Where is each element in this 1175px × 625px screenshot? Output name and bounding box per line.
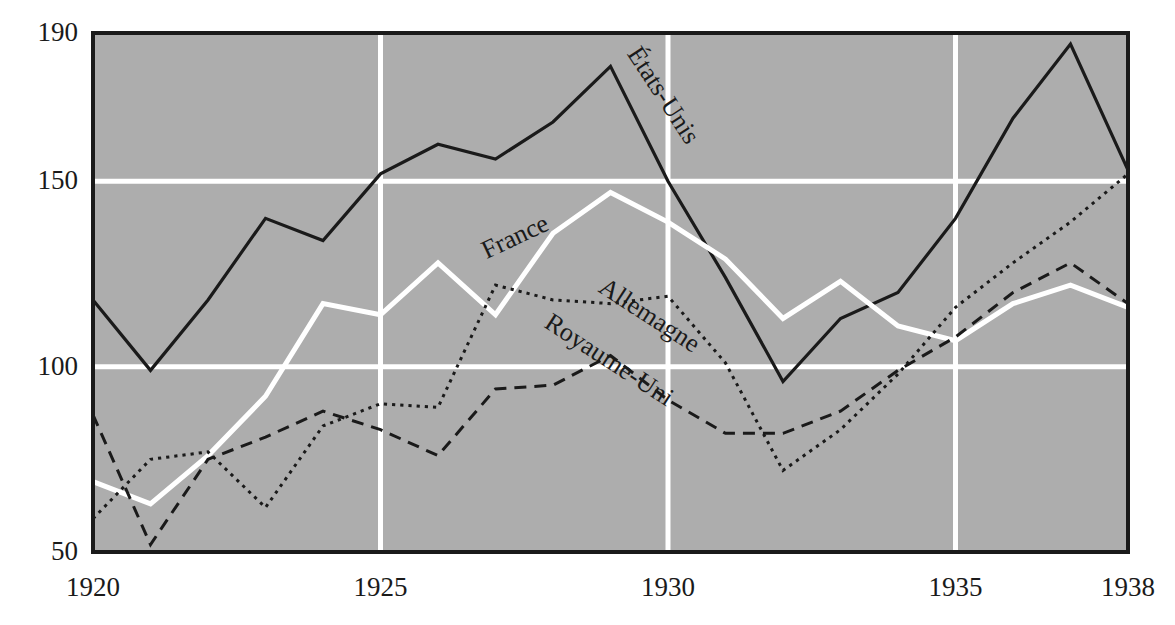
x-tick-label-1920: 1920 [43, 574, 143, 601]
line-chart: États-UnisFranceAllemagneRoyaume-Uni 501… [0, 0, 1175, 625]
y-tick-label-190: 190 [38, 19, 79, 46]
x-tick-label-1925: 1925 [331, 574, 431, 601]
chart-canvas: États-UnisFranceAllemagneRoyaume-Uni [0, 0, 1175, 625]
y-tick-label-50: 50 [51, 538, 78, 565]
x-tick-label-1938: 1938 [1078, 574, 1175, 601]
y-tick-label-100: 100 [38, 353, 79, 380]
x-tick-label-1930: 1930 [618, 574, 718, 601]
x-tick-label-1935: 1935 [906, 574, 1006, 601]
y-tick-label-150: 150 [38, 167, 79, 194]
